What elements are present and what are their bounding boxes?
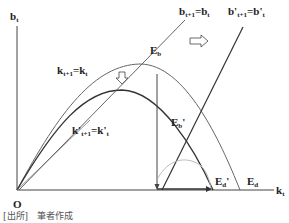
b-prime-line (162, 27, 243, 190)
source-note: [出所] 筆者作成 (3, 209, 73, 222)
y-axis-label: bt (10, 11, 18, 24)
shift-down-arrow-icon (116, 72, 128, 84)
k-curve-label: kt+1=kt (57, 65, 88, 78)
diagram-canvas (0, 0, 289, 223)
b-prime-line-label: b't+1=b't (228, 6, 265, 19)
k-curve (17, 64, 240, 190)
ed-label: Ed (247, 176, 258, 189)
gray-arc (158, 160, 211, 188)
ed-prime-label: Ed' (215, 176, 229, 189)
b-line-label: bt+1=bt (179, 6, 210, 19)
k-prime-curve-label: k't+1=k't (72, 125, 109, 138)
eb-prime-label: Eb' (171, 117, 185, 130)
x-axis-label: kt (276, 185, 284, 198)
eb-label: Eb (150, 45, 161, 58)
shift-right-arrow-icon (190, 35, 208, 47)
